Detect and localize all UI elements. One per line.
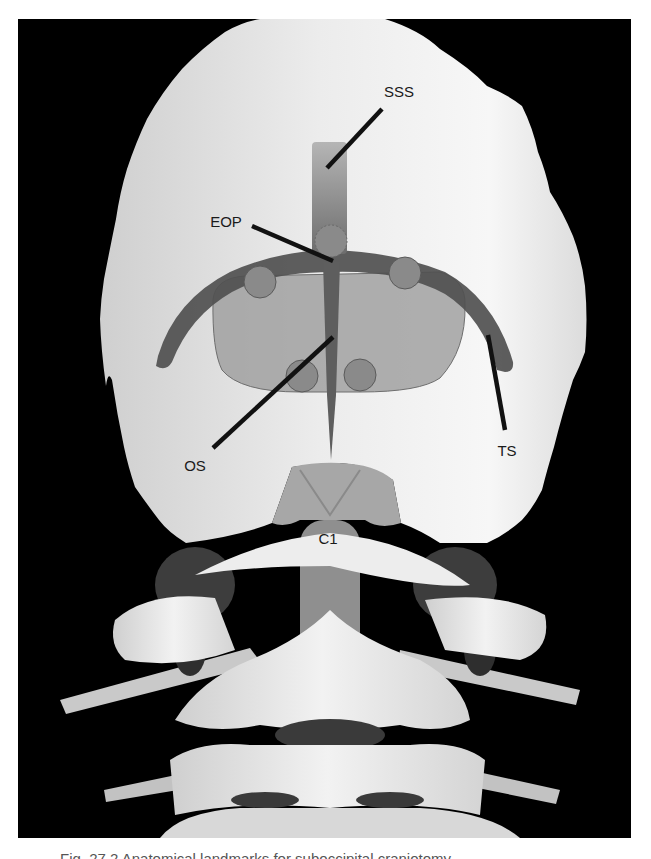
right-upper-circle	[389, 257, 421, 289]
figure-caption: Fig. 27.2 Anatomical landmarks for suboc…	[60, 848, 620, 859]
label-os: OS	[184, 457, 206, 474]
label-ts: TS	[497, 442, 516, 459]
label-sss: SSS	[384, 83, 414, 100]
right-lower-circle	[344, 359, 376, 391]
eop-circle	[315, 225, 347, 257]
anatomical-figure: SSS EOP OS TS C1	[0, 0, 651, 859]
left-upper-circle	[244, 266, 276, 298]
foramen-magnum	[272, 463, 401, 526]
label-eop: EOP	[210, 213, 242, 230]
label-c1: C1	[318, 530, 337, 547]
